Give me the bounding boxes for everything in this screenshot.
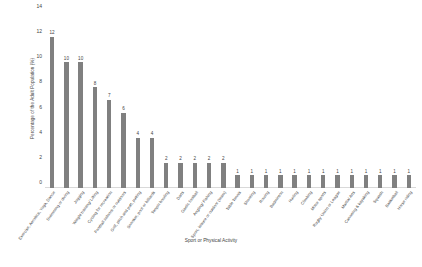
bar-slot: 1Motor sports xyxy=(316,12,330,188)
y-axis-tick-label: 14 xyxy=(36,3,42,9)
bar-slot: 1Rowing xyxy=(259,12,273,188)
bar xyxy=(64,62,68,188)
bar-slot: 2Sport, leisure or outdoor (team) xyxy=(216,12,230,188)
bar xyxy=(335,175,339,188)
bar-value-label: 2 xyxy=(208,157,211,162)
bar-slot: 8Weight training/ Lifting xyxy=(88,12,102,188)
bar xyxy=(307,175,311,188)
bar-slot: 12Exercise, Aerobics, Yoga, Dance xyxy=(45,12,59,188)
bar xyxy=(193,163,197,188)
bar-value-label: 2 xyxy=(222,157,225,162)
bar xyxy=(278,175,282,188)
bar-value-label: 4 xyxy=(151,132,154,137)
y-axis-tick-label: 12 xyxy=(36,28,42,34)
bar-value-label: 1 xyxy=(251,170,254,175)
bar-value-label: 1 xyxy=(293,170,296,175)
bar-value-label: 8 xyxy=(94,82,97,87)
bar-value-label: 1 xyxy=(379,170,382,175)
bar xyxy=(407,175,411,188)
bar-slot: 4Golf, pitch and putt, putting xyxy=(131,12,145,188)
bar-slot: 10Jogging xyxy=(74,12,88,188)
bar-slot: 1Martial Arts xyxy=(345,12,359,188)
bar xyxy=(50,37,54,188)
bar-series: 12Exercise, Aerobics, Yoga, Dance10Swimm… xyxy=(45,12,416,188)
bar-slot: 4Snooker, pool or billiards xyxy=(145,12,159,188)
bar xyxy=(364,175,368,188)
x-axis-tick-label: Rugby Union or League xyxy=(312,190,341,228)
bar xyxy=(221,163,225,188)
y-axis-tick-label: 10 xyxy=(36,53,42,59)
bar xyxy=(121,113,125,188)
y-axis-tick-label: 4 xyxy=(39,129,42,135)
bar-value-label: 1 xyxy=(407,170,410,175)
bar xyxy=(250,175,254,188)
bar xyxy=(164,163,168,188)
x-axis-tick-label: Darts xyxy=(175,190,185,201)
bar-value-label: 6 xyxy=(122,107,125,112)
bar-value-label: 2 xyxy=(165,157,168,162)
bar-value-label: 2 xyxy=(179,157,182,162)
bar-slot: 1Hurling xyxy=(288,12,302,188)
x-axis-tick-label: Jogging xyxy=(72,190,84,205)
bar-value-label: 1 xyxy=(365,170,368,175)
bar-slot: 2Gaelic football xyxy=(188,12,202,188)
bar xyxy=(235,175,239,188)
x-axis-tick-label: Squash xyxy=(372,190,384,204)
bar xyxy=(350,175,354,188)
bar-slot: 1Squash xyxy=(373,12,387,188)
bar-slot: 2Darts xyxy=(173,12,187,188)
bar-value-label: 1 xyxy=(236,170,239,175)
bar-value-label: 7 xyxy=(108,94,111,99)
bar xyxy=(264,175,268,188)
bar-slot: 2Tenpin bowling xyxy=(159,12,173,188)
bar-slot: 6Football indoors or outdoors xyxy=(116,12,130,188)
y-axis-tick-label: 0 xyxy=(39,179,42,185)
bar-slot: 1Basketball xyxy=(387,12,401,188)
bar xyxy=(136,138,140,188)
bar-slot: 2Angling/ Fishing xyxy=(202,12,216,188)
x-axis-tick-label: Shooting xyxy=(242,190,256,206)
bar xyxy=(321,175,325,188)
y-axis-tick-label: 6 xyxy=(39,104,42,110)
bar-value-label: 10 xyxy=(78,57,83,62)
bar-slot: 1Climbing xyxy=(302,12,316,188)
bar-value-label: 1 xyxy=(350,170,353,175)
bar xyxy=(107,100,111,188)
bar-value-label: 1 xyxy=(308,170,311,175)
x-axis-title: Sport or Physical Activity xyxy=(0,238,422,243)
bar-slot: 10Swimming or diving xyxy=(59,12,73,188)
bar-slot: 1Canoeing & kayaking xyxy=(359,12,373,188)
bar-value-label: 12 xyxy=(50,31,55,36)
plot-area: 02468101214 12Exercise, Aerobics, Yoga, … xyxy=(45,12,416,188)
bar-value-label: 2 xyxy=(194,157,197,162)
bar-slot: 1Horse riding xyxy=(402,12,416,188)
bar-slot: 1Rugby Union or League xyxy=(330,12,344,188)
bar-value-label: 4 xyxy=(136,132,139,137)
bar-slot: 1Badminton xyxy=(273,12,287,188)
bar-chart: Percentage of the Adult Population (%) 0… xyxy=(0,0,422,267)
y-axis-tick-label: 8 xyxy=(39,78,42,84)
bar xyxy=(150,138,154,188)
bar-value-label: 1 xyxy=(265,170,268,175)
bar-slot: 1Table Tennis xyxy=(230,12,244,188)
x-axis-tick-label: Badminton xyxy=(269,190,285,209)
bar xyxy=(292,175,296,188)
bar-slot: 7Cycling for recreation xyxy=(102,12,116,188)
bar-value-label: 1 xyxy=(336,170,339,175)
bar xyxy=(392,175,396,188)
bar-value-label: 1 xyxy=(279,170,282,175)
bar xyxy=(207,163,211,188)
x-axis-tick-label: Hurling xyxy=(287,190,299,203)
bar xyxy=(78,62,82,188)
y-axis-tick-label: 2 xyxy=(39,154,42,160)
bar-value-label: 10 xyxy=(64,57,69,62)
bar-value-label: 1 xyxy=(393,170,396,175)
x-axis-tick-label: Climbing xyxy=(300,190,313,206)
bar xyxy=(378,175,382,188)
bar-value-label: 1 xyxy=(322,170,325,175)
y-axis-title: Percentage of the Adult Population (%) xyxy=(30,19,35,179)
bar-slot: 1Shooting xyxy=(245,12,259,188)
bar xyxy=(93,87,97,188)
bar xyxy=(178,163,182,188)
x-axis-tick-label: Rowing xyxy=(258,190,270,204)
